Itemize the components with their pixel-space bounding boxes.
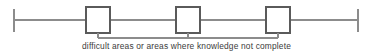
box-2	[176, 7, 200, 33]
box-1	[86, 7, 110, 33]
box-3	[266, 7, 290, 33]
bracket-caption-label: difficult areas or areas where knowledge…	[0, 41, 373, 52]
diagram-container: difficult areas or areas where knowledge…	[0, 0, 373, 56]
